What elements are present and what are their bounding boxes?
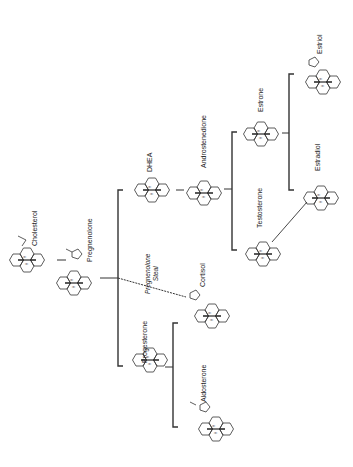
- estriol-structure: [306, 57, 341, 94]
- steal-line-1: Pregnenolone: [144, 254, 152, 294]
- edge-testosterone-estradiol: [272, 202, 307, 242]
- pathway-diagram: H H: [0, 0, 353, 467]
- connectors: [57, 74, 307, 427]
- label-cholesterol: Cholesterol: [31, 211, 38, 246]
- label-pregnenolone: Pregnenolone: [86, 218, 93, 262]
- estradiol-structure: [304, 186, 339, 210]
- label-estradiol: Estradiol: [314, 144, 321, 171]
- label-cortisol: Cortisol: [199, 263, 206, 287]
- label-dhea: DHEA: [146, 153, 153, 172]
- estrone-structure: [244, 122, 279, 146]
- label-estrone: Estrone: [257, 88, 264, 112]
- androstenedione-structure: [187, 181, 222, 205]
- bracket-androstenedione: [232, 132, 237, 250]
- progesterone-structure: [133, 348, 168, 372]
- label-aldosterone: Aldosterone: [200, 365, 207, 402]
- bracket-progesterone: [173, 323, 178, 427]
- dhea-structure: [135, 178, 170, 202]
- bracket-estrone: [289, 74, 294, 190]
- label-testosterone: Testosterone: [256, 188, 263, 228]
- aldosterone-structure: [190, 402, 234, 441]
- cholesterol-structure: [10, 236, 45, 272]
- cortisol-structure: [190, 290, 230, 328]
- label-pregnenolone-steal: Pregnenolone Steal: [144, 254, 160, 294]
- label-estriol: Estriol: [316, 35, 323, 54]
- label-progesterone: Progesterone: [141, 321, 148, 363]
- steal-line-2: Steal: [152, 254, 160, 294]
- label-androstenedione: Androstenedione: [200, 115, 207, 168]
- testosterone-structure: [246, 242, 281, 266]
